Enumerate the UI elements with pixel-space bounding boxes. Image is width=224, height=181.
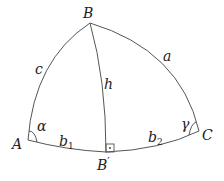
label-side-b1: b1 xyxy=(59,133,74,151)
label-C: C xyxy=(202,127,213,143)
label-side-b2: b2 xyxy=(148,129,163,147)
label-side-c: c xyxy=(35,61,43,77)
label-B-prime: B′ xyxy=(96,155,110,173)
label-angle-gamma: γ xyxy=(181,116,190,132)
label-B: B xyxy=(82,5,93,21)
label-A: A xyxy=(10,136,22,152)
label-angle-alpha: α xyxy=(37,118,47,134)
label-altitude-h: h xyxy=(104,76,113,92)
label-side-a: a xyxy=(163,48,171,64)
right-angle-dot xyxy=(109,147,111,149)
spherical-triangle-diagram: B A C B′ c a h b1 b2 α γ xyxy=(0,0,224,181)
